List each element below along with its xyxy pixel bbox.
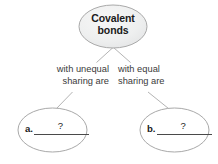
connector-root-to-left: [97, 48, 114, 63]
answer-rule-b[interactable]: ?: [157, 121, 212, 135]
concept-map-diagram: Covalent bonds with unequal sharing are …: [0, 0, 218, 164]
root-node-ellipse: [79, 5, 147, 48]
answer-value-a: ?: [34, 120, 87, 131]
answer-letter-b: b.: [147, 123, 156, 135]
connector-root-to-right: [114, 48, 131, 63]
connector-right-label-to-node: [148, 92, 169, 109]
edge-label-left-line2: sharing are: [33, 75, 109, 87]
edge-label-left: with unequal sharing are: [33, 63, 109, 87]
answer-value-b: ?: [157, 120, 210, 131]
edge-label-right-line1: with equal: [118, 63, 194, 75]
edge-label-right: with equal sharing are: [118, 63, 194, 87]
answer-blank-b[interactable]: b. ?: [147, 121, 212, 135]
answer-letter-a: a.: [25, 123, 33, 135]
answer-blank-a[interactable]: a. ?: [25, 121, 89, 135]
edge-label-right-line2: sharing are: [118, 75, 194, 87]
connector-left-label-to-node: [57, 92, 73, 109]
answer-rule-a[interactable]: ?: [34, 121, 89, 135]
edge-label-left-line1: with unequal: [33, 63, 109, 75]
